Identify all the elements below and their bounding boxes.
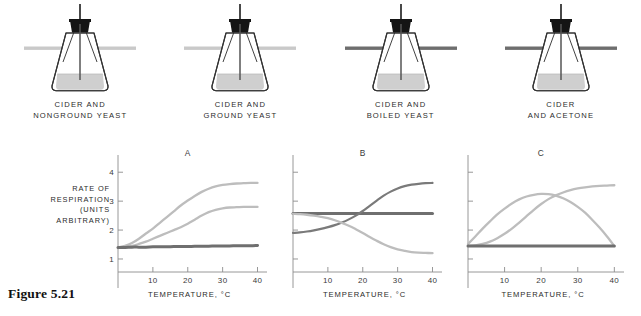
flask-diagram-icon [481, 0, 641, 100]
apparatus-caption-line-2: AND ACETONE [481, 110, 641, 121]
apparatus-ground-yeast: CIDER AND GROUND YEAST [160, 0, 320, 140]
y-axis-tick-label: 2 [109, 226, 114, 235]
apparatus-caption: CIDER AND BOILED YEAST [321, 99, 481, 121]
figure-caption: Figure 5.21 [8, 286, 75, 302]
apparatus-caption-line-1: CIDER AND [0, 99, 160, 110]
flask-diagram-icon [0, 0, 160, 100]
apparatus-row: CIDER AND NONGROUND YEAST CIDER AND GR [0, 0, 641, 140]
panel-letter: B [360, 148, 366, 158]
panel-letter: C [538, 148, 545, 158]
apparatus-caption-line-1: CIDER [481, 99, 641, 110]
flask-diagram-icon [160, 0, 320, 100]
apparatus-caption-line-1: CIDER AND [321, 99, 481, 110]
apparatus-nonground-yeast: CIDER AND NONGROUND YEAST [0, 0, 160, 140]
x-axis-tick-label: 30 [573, 276, 583, 285]
curve-falling-light-sigmoid [293, 214, 433, 253]
x-axis-tick-label: 10 [323, 276, 333, 285]
apparatus-caption: CIDER AND NONGROUND YEAST [0, 99, 160, 121]
x-axis-title: TEMPERATURE, °C [501, 290, 584, 299]
x-axis-title: TEMPERATURE, °C [148, 290, 231, 299]
apparatus-cider-acetone: CIDER AND ACETONE [481, 0, 641, 140]
curve-rising-dark-sigmoid [293, 183, 433, 233]
apparatus-caption: CIDER AND GROUND YEAST [160, 99, 320, 121]
apparatus-caption-line-2: GROUND YEAST [160, 110, 320, 121]
y-axis-tick-label: 1 [109, 255, 114, 264]
x-axis-title: TEMPERATURE, °C [323, 290, 406, 299]
x-axis-tick-label: 20 [183, 276, 193, 285]
apparatus-caption-line-1: CIDER AND [160, 99, 320, 110]
x-axis-tick-label: 20 [358, 276, 368, 285]
panel-letter: A [185, 148, 191, 158]
curve-flat-dark [118, 245, 258, 247]
x-axis-tick-label: 30 [218, 276, 228, 285]
x-axis-tick-label: 40 [428, 276, 438, 285]
x-axis-tick-label: 40 [253, 276, 263, 285]
chart-panel-c: C10203040TEMPERATURE, °C [458, 145, 630, 316]
chart-panel-a: A123410203040TEMPERATURE, °C [108, 145, 273, 316]
x-axis-tick-label: 30 [393, 276, 403, 285]
curve-lower-rising-light [118, 207, 258, 248]
y-axis-tick-label: 3 [109, 197, 114, 206]
x-axis-tick-label: 10 [500, 276, 510, 285]
curve-upper-rising-light [118, 183, 258, 248]
apparatus-caption-line-2: NONGROUND YEAST [0, 110, 160, 121]
figure-root: CIDER AND NONGROUND YEAST CIDER AND GR [0, 0, 641, 316]
y-axis-tick-label: 4 [109, 168, 114, 177]
x-axis-tick-label: 40 [609, 276, 619, 285]
flask-diagram-icon [321, 0, 481, 100]
apparatus-caption: CIDER AND ACETONE [481, 99, 641, 121]
apparatus-caption-line-2: BOILED YEAST [321, 110, 481, 121]
curve-peaked-light [468, 194, 614, 246]
chart-panel-b: B10203040TEMPERATURE, °C [283, 145, 448, 316]
charts-row: A123410203040TEMPERATURE, °C B10203040TE… [0, 145, 641, 316]
x-axis-tick-label: 10 [148, 276, 158, 285]
apparatus-boiled-yeast: CIDER AND BOILED YEAST [321, 0, 481, 140]
x-axis-tick-label: 20 [536, 276, 546, 285]
